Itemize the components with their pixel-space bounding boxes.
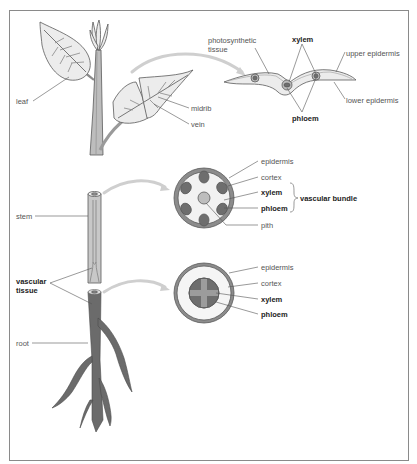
label-pith: pith <box>261 221 273 230</box>
label-root-cortex: cortex <box>261 279 281 288</box>
label-root-xylem: xylem <box>261 295 282 304</box>
label-lower-epidermis: lower epidermis <box>346 96 399 105</box>
label-midrib: midrib <box>191 104 211 113</box>
label-stem: stem <box>16 212 32 221</box>
label-vein: vein <box>191 120 205 129</box>
stem-segment <box>88 192 101 284</box>
root-system <box>52 290 132 433</box>
label-vascular-bundle: vascular bundle <box>300 194 357 203</box>
stem-cross-section <box>174 168 234 228</box>
label-leaf-phloem: phloem <box>292 114 319 123</box>
label-stem-cortex: cortex <box>261 173 281 182</box>
label-leaf-xylem: xylem <box>292 35 313 44</box>
label-root: root <box>16 339 29 348</box>
flower-bud <box>90 20 108 50</box>
plant-shoot <box>40 20 193 155</box>
label-stem-phloem: phloem <box>261 204 288 213</box>
label-leaf: leaf <box>16 97 28 106</box>
plant-leader-lines <box>32 77 189 343</box>
label-root-phloem: phloem <box>261 310 288 319</box>
plant-illustration <box>0 0 417 464</box>
label-root-epidermis: epidermis <box>261 263 294 272</box>
root-cross-section <box>174 263 234 323</box>
label-photosynthetic-tissue: photosynthetic tissue <box>208 36 256 54</box>
label-stem-xylem: xylem <box>261 188 282 197</box>
label-upper-epidermis: upper epidermis <box>346 49 400 58</box>
label-stem-epidermis: epidermis <box>261 157 294 166</box>
label-vascular-tissue: vascular tissue <box>16 277 46 295</box>
